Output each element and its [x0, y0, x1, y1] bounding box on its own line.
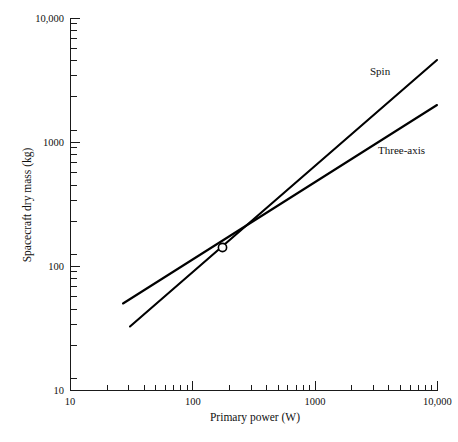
crossover-marker-icon	[218, 243, 226, 251]
y-axis-ticks	[71, 19, 80, 379]
figure-container: 10,000 1000 100 10 10 100 1000 10,000 Sp…	[0, 0, 458, 442]
x-axis-title: Primary power (W)	[210, 411, 300, 424]
series-line-spin	[130, 60, 437, 327]
figure-caption	[36, 431, 266, 442]
x-tick-label-100: 100	[185, 396, 201, 407]
y-axis-title: Spacecraft dry mass (kg)	[21, 148, 34, 263]
series-label-spin: Spin	[370, 65, 391, 77]
series-line-three-axis	[123, 105, 437, 304]
x-tick-label-10000: 10,000	[423, 396, 452, 407]
y-tick-label-10: 10	[54, 385, 65, 396]
x-axis-ticks	[107, 381, 437, 391]
x-tick-label-10: 10	[65, 396, 76, 407]
y-tick-label-10000: 10,000	[35, 13, 64, 24]
log-log-chart: 10,000 1000 100 10 10 100 1000 10,000 Sp…	[0, 0, 458, 442]
x-tick-label-1000: 1000	[305, 396, 326, 407]
series-label-three-axis: Three-axis	[378, 144, 425, 156]
y-tick-label-100: 100	[48, 261, 64, 272]
data-series	[123, 60, 437, 327]
y-tick-label-1000: 1000	[43, 137, 64, 148]
